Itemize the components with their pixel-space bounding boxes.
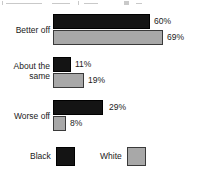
bar-black-about-the-same <box>53 57 71 72</box>
legend-entry-black: Black <box>30 145 75 167</box>
legend-label-white: White <box>100 151 122 161</box>
legend-entry-white: White <box>100 145 146 167</box>
plot-area: Better off 60% 69% About the same <box>0 0 204 140</box>
bar-white-about-the-same <box>53 73 84 88</box>
bar-group-about-the-same: About the same 11% 19% <box>0 57 204 89</box>
category-label-about-the-same: About the same <box>0 61 50 81</box>
bar-group-better-off: Better off 60% 69% <box>0 14 204 46</box>
bar-value-black-worse-off: 29% <box>109 102 126 112</box>
bar-black-better-off <box>53 14 150 29</box>
bar-white-worse-off <box>53 116 66 131</box>
bar-value-black-about-the-same: 11% <box>75 59 91 69</box>
bar-black-worse-off <box>53 100 103 115</box>
category-label-line: same <box>0 71 50 81</box>
legend-swatch-black <box>56 147 75 166</box>
bar-value-black-better-off: 60% <box>154 16 171 26</box>
bar-group-worse-off: Worse off 29% 8% <box>0 100 204 132</box>
chart-legend: Black White <box>0 145 204 169</box>
category-label-better-off: Better off <box>0 25 50 35</box>
chart-container: Better off 60% 69% About the same <box>0 0 204 173</box>
bar-value-white-worse-off: 8% <box>70 118 82 128</box>
bar-value-white-better-off: 69% <box>167 32 184 42</box>
category-label-line: Worse off <box>0 111 50 121</box>
bar-white-better-off <box>53 30 163 45</box>
category-label-line: Better off <box>0 25 50 35</box>
category-label-worse-off: Worse off <box>0 111 50 121</box>
bar-value-white-about-the-same: 19% <box>88 75 105 85</box>
category-label-line: About the <box>0 61 50 71</box>
legend-swatch-white <box>127 147 146 166</box>
legend-label-black: Black <box>30 151 51 161</box>
